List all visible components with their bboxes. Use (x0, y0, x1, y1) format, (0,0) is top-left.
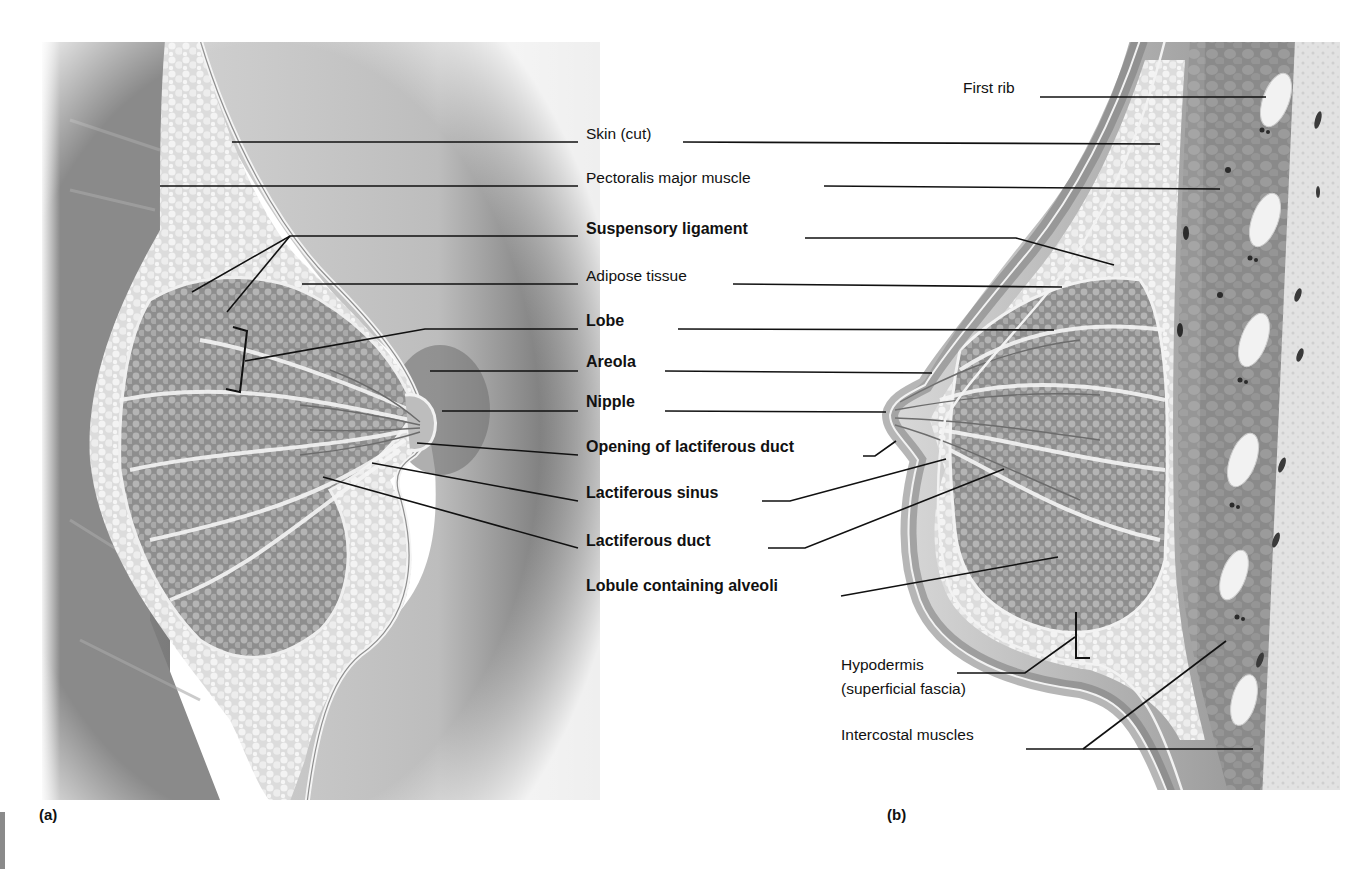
leader-line-lobe-b (678, 329, 1054, 330)
label-hypodermis-1: Hypodermis (841, 656, 924, 674)
label-opening: Opening of lactiferous duct (586, 438, 794, 456)
label-areola: Areola (586, 353, 636, 371)
label-pectoralis: Pectoralis major muscle (586, 169, 751, 187)
breast-anatomy-figure: Skin (cut)Pectoralis major muscleSuspens… (0, 0, 1366, 869)
leader-line-opening-b (863, 441, 896, 456)
panel-a-tag: (a) (39, 806, 57, 823)
label-suspensory: Suspensory ligament (586, 220, 748, 238)
label-duct: Lactiferous duct (586, 532, 710, 550)
panel-a-illustration (0, 0, 600, 869)
illustration (0, 0, 1366, 869)
panel-b-tag: (b) (887, 806, 906, 823)
leader-line-skin-b (683, 142, 1160, 144)
label-first-rib: First rib (963, 79, 1015, 97)
page-edge-marker (0, 812, 5, 869)
label-skin: Skin (cut) (586, 125, 651, 143)
label-adipose: Adipose tissue (586, 267, 687, 285)
label-lobule: Lobule containing alveoli (586, 577, 778, 595)
label-hypodermis-2: (superficial fascia) (841, 680, 966, 698)
leader-line-areola-b (665, 371, 932, 373)
leader-line-nipple-b (665, 411, 886, 412)
label-nipple: Nipple (586, 393, 635, 411)
label-lobe: Lobe (586, 312, 624, 330)
label-sinus: Lactiferous sinus (586, 484, 718, 502)
label-intercostal: Intercostal muscles (841, 726, 974, 744)
